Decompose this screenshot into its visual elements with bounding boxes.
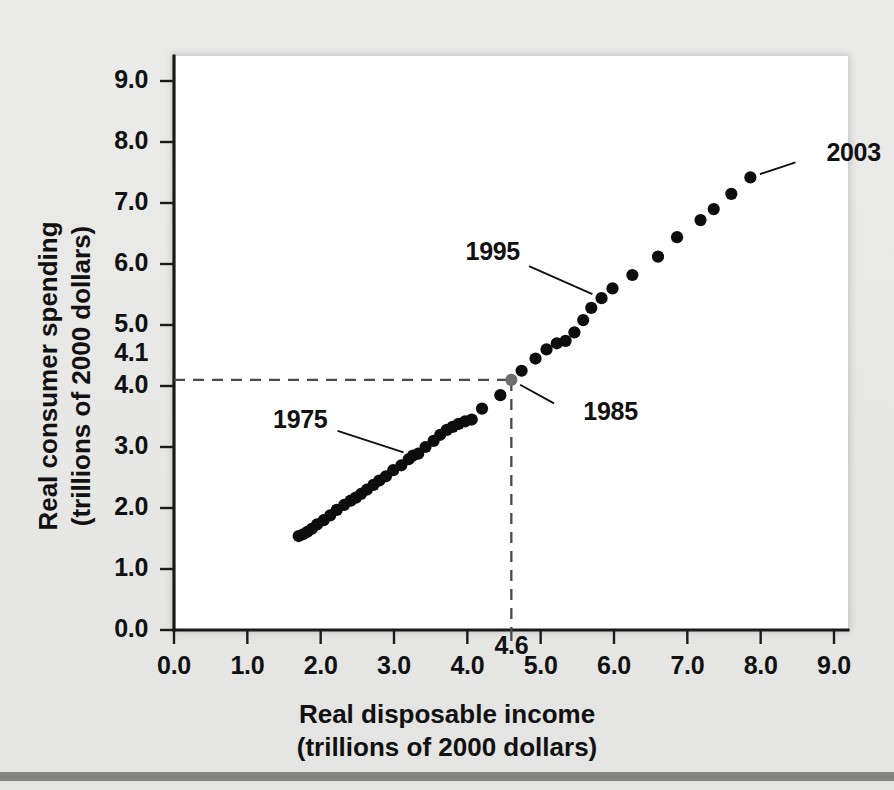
- leader-line-2003: [760, 162, 796, 174]
- data-point: [694, 214, 706, 226]
- data-point-highlighted: [505, 374, 517, 386]
- x-axis-title-line2: (trillions of 2000 dollars): [0, 731, 894, 764]
- data-point: [708, 203, 720, 215]
- axes: [174, 56, 848, 630]
- figure-page: 0.01.02.03.04.05.06.07.08.09.04.1 0.01.0…: [0, 0, 894, 790]
- x-tick-label: 6.0: [574, 651, 654, 680]
- x-tick-label: 3.0: [354, 651, 434, 680]
- annotation-leader-lines: [338, 162, 796, 452]
- data-point: [494, 389, 506, 401]
- x-axis-title-line1: Real disposable income: [299, 699, 595, 729]
- x-tick-label: 2.0: [281, 651, 361, 680]
- x-tick-label: 7.0: [647, 651, 727, 680]
- data-point: [725, 188, 737, 200]
- bottom-divider-rule: [0, 772, 894, 781]
- x-axis-title: Real disposable income (trillions of 200…: [0, 698, 894, 764]
- data-point: [671, 231, 683, 243]
- x-tick-label: 8.0: [721, 651, 801, 680]
- data-point: [626, 269, 638, 281]
- y-axis-title: Real consumer spending (trillions of 200…: [32, 89, 98, 663]
- data-point: [652, 251, 664, 263]
- data-point: [540, 343, 552, 355]
- data-point: [560, 335, 572, 347]
- data-point: [568, 326, 580, 338]
- annotation-label-2003: 2003: [826, 138, 880, 167]
- x-tick-label: 0.0: [134, 651, 214, 680]
- data-point: [466, 413, 478, 425]
- data-point: [595, 292, 607, 304]
- data-point: [744, 171, 756, 183]
- annotation-label-1975: 1975: [273, 405, 327, 434]
- y-axis-title-line2: (trillions of 2000 dollars): [65, 89, 98, 663]
- data-points: [293, 171, 757, 542]
- x-tick-label: 9.0: [794, 651, 874, 680]
- y-axis-title-line1: Real consumer spending: [33, 221, 63, 530]
- data-point: [585, 302, 597, 314]
- data-point: [529, 352, 541, 364]
- x-tick-label-special: 4.6: [471, 631, 551, 660]
- leader-line-1995: [529, 266, 592, 294]
- axis-ticks: [160, 81, 834, 644]
- leader-line-1975: [338, 431, 404, 453]
- x-tick-label: 1.0: [207, 651, 287, 680]
- annotation-label-1985: 1985: [583, 397, 637, 426]
- annotation-label-1995: 1995: [466, 237, 520, 266]
- data-point: [516, 365, 528, 377]
- leader-line-1985: [520, 385, 554, 404]
- data-point: [577, 314, 589, 326]
- data-point: [606, 282, 618, 294]
- data-point: [476, 402, 488, 414]
